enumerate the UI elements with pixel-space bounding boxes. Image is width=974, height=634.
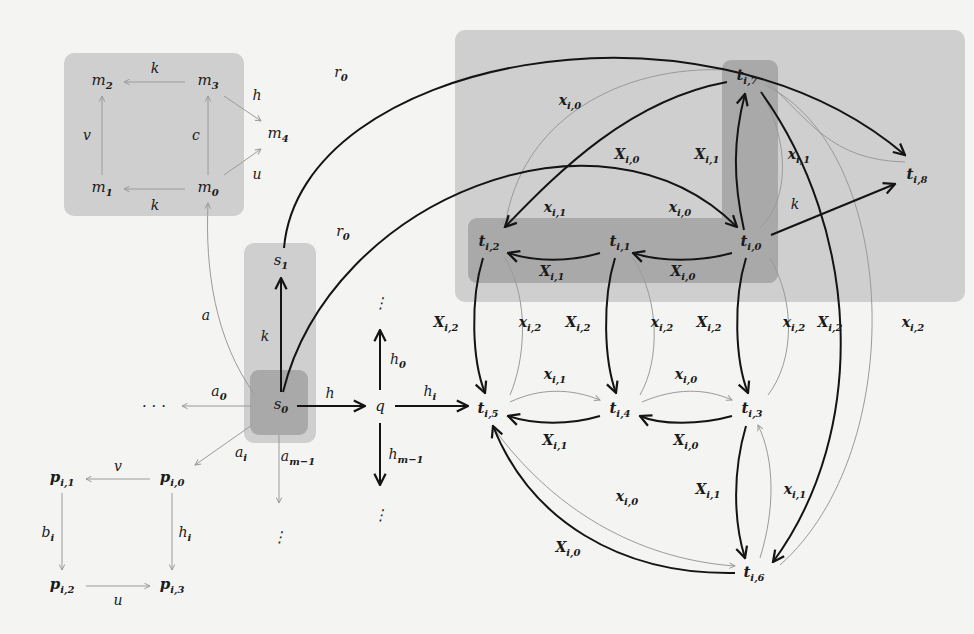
edge-label-31: xi,2 xyxy=(519,315,542,333)
edge-label-3: c xyxy=(192,128,200,142)
edge-label-10: a0 xyxy=(211,384,226,402)
edge-label-9: k xyxy=(261,329,269,343)
node-ti7: ti,7 xyxy=(736,68,757,86)
edge-label-29: Xi,0 xyxy=(670,264,695,282)
commutative-diagram: m2m3m4m1m0s1s0q· · ·⋮⋮⋮pi,1pi,0pi,2pi,3t… xyxy=(0,0,974,634)
node-ti1: ti,1 xyxy=(609,234,630,252)
node-pi0: pi,0 xyxy=(160,470,185,488)
edge-label-13: hi xyxy=(424,384,437,402)
edge-label-21: xi,0 xyxy=(559,93,582,111)
node-dots-s0-bottom: ⋮ xyxy=(272,530,287,545)
edge-label-39: xi,0 xyxy=(675,367,698,385)
node-m0: m0 xyxy=(197,180,218,198)
node-ti6: ti,6 xyxy=(743,565,764,583)
edge-label-11: h xyxy=(325,386,334,400)
edge-label-18: bi xyxy=(42,525,55,543)
edge-label-24: xi,1 xyxy=(544,200,567,218)
edge-label-5: k xyxy=(151,198,159,212)
edge-label-4: u xyxy=(252,167,261,181)
node-s1: s1 xyxy=(274,253,289,271)
edge-label-25: xi,0 xyxy=(669,200,692,218)
node-pi2: pi,2 xyxy=(50,577,75,595)
edge-label-6: r0 xyxy=(334,65,348,83)
edge-label-26: xi,1 xyxy=(788,147,811,165)
edge-label-45: Xi,0 xyxy=(555,540,580,558)
edge-label-12: h0 xyxy=(390,352,406,370)
edge-label-0: k xyxy=(151,61,159,75)
node-pi3: pi,3 xyxy=(160,577,185,595)
edge-label-7: r0 xyxy=(336,224,350,242)
edge-label-22: Xi,0 xyxy=(614,147,639,165)
edge-label-30: Xi,2 xyxy=(433,315,458,333)
edge-label-43: xi,1 xyxy=(784,482,807,500)
node-ti4: ti,4 xyxy=(609,401,630,419)
edge-label-41: Xi,0 xyxy=(673,433,698,451)
node-m2: m2 xyxy=(91,73,112,91)
node-q: q xyxy=(375,399,385,414)
node-ti2: ti,2 xyxy=(478,234,499,252)
edge-label-33: xi,2 xyxy=(651,315,674,333)
edge-label-35: xi,2 xyxy=(783,315,806,333)
node-dots-q-bottom: ⋮ xyxy=(373,508,388,523)
edge-label-44: xi,0 xyxy=(616,489,639,507)
edge-label-23: Xi,1 xyxy=(694,147,719,165)
edge-label-2: v xyxy=(83,128,91,142)
edge-label-20: u xyxy=(113,593,122,607)
edge-label-8: a xyxy=(202,308,210,322)
edge-label-32: Xi,2 xyxy=(565,315,590,333)
node-pi1: pi,1 xyxy=(50,470,75,488)
edge-label-15: am−1 xyxy=(281,449,315,467)
edge-label-1: h xyxy=(252,88,261,102)
edge-label-28: Xi,1 xyxy=(539,264,564,282)
node-ti8: ti,8 xyxy=(906,167,927,185)
edge-label-38: xi,1 xyxy=(544,367,567,385)
edge-label-14: ai xyxy=(235,445,247,463)
edge-label-36: Xi,2 xyxy=(817,315,842,333)
node-m4: m4 xyxy=(267,126,288,144)
regions xyxy=(64,30,965,443)
edge-label-19: hi xyxy=(179,525,192,543)
edge-label-34: Xi,2 xyxy=(696,315,721,333)
node-ti5: ti,5 xyxy=(477,401,498,419)
node-dots-q-top: ⋮ xyxy=(373,296,388,311)
edge-label-17: v xyxy=(114,459,122,473)
edge-label-40: Xi,1 xyxy=(542,433,567,451)
edge-label-16: hm−1 xyxy=(389,447,424,465)
node-s0: s0 xyxy=(274,397,289,415)
node-m1: m1 xyxy=(91,180,112,198)
node-dots-left: · · · xyxy=(142,399,166,414)
node-ti3: ti,3 xyxy=(741,401,762,419)
edge-label-27: k xyxy=(791,197,799,211)
node-m3: m3 xyxy=(197,73,218,91)
edge-label-37: xi,2 xyxy=(902,315,925,333)
node-ti0: ti,0 xyxy=(740,234,761,252)
edge-label-42: Xi,1 xyxy=(695,482,720,500)
